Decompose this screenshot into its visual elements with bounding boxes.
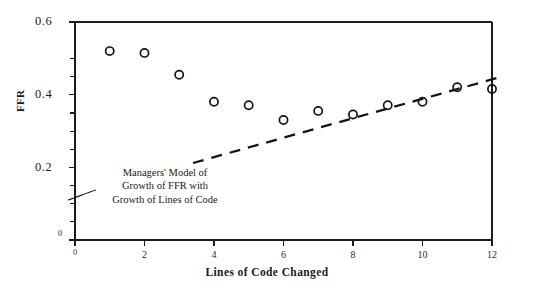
x-tick-label-10: 10	[411, 249, 435, 260]
data-point	[106, 47, 114, 55]
x-tick-label-0: 0	[63, 247, 87, 257]
x-tick-label-6: 6	[272, 249, 296, 260]
annotation-line-2: Growth of FFR with	[100, 179, 230, 192]
x-tick-label-8: 8	[341, 249, 365, 260]
data-point	[314, 107, 322, 115]
data-point	[140, 49, 148, 57]
y-tick-label-0-6: 0.6	[35, 14, 52, 29]
data-point	[349, 110, 357, 118]
managers-model-annotation: Managers' Model of Growth of FFR with Gr…	[100, 166, 230, 206]
plot-frame	[75, 22, 492, 240]
annotation-leader-line	[68, 190, 96, 200]
data-point	[175, 71, 183, 79]
data-point	[210, 98, 218, 106]
data-point	[384, 101, 392, 109]
x-axis-ticks	[75, 240, 492, 246]
chart-figure: 0.6 0.4 0.2 0 0 2 4 6 8 10 12 FFR Lines …	[0, 0, 534, 297]
trend-line-managers-model	[193, 78, 497, 163]
y-tick-label-0: 0	[58, 228, 62, 238]
data-point	[245, 101, 253, 109]
data-point-markers	[106, 47, 497, 124]
y-axis-label: FFR	[14, 90, 26, 112]
y-tick-label-0-4: 0.4	[35, 87, 52, 102]
y-tick-label-0-2: 0.2	[35, 160, 52, 175]
x-tick-label-12: 12	[480, 249, 504, 260]
x-axis-label: Lines of Code Changed	[0, 266, 534, 278]
x-tick-label-4: 4	[202, 249, 226, 260]
x-tick-label-2: 2	[133, 249, 157, 260]
annotation-line-1: Managers' Model of	[100, 166, 230, 179]
data-point	[279, 116, 287, 124]
annotation-line-3: Growth of Lines of Code	[100, 193, 230, 206]
